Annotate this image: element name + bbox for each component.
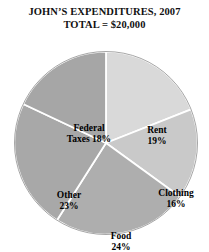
chart-subtitle-total: TOTAL = $20,000 bbox=[0, 19, 209, 31]
pie-svg bbox=[14, 51, 198, 235]
slice-label-food-value: 24% bbox=[91, 242, 151, 252]
chart-title-block: JOHN’S EXPENDITURES, 2007 TOTAL = $20,00… bbox=[0, 6, 209, 31]
page-title: JOHN’S EXPENDITURES, 2007 bbox=[0, 6, 209, 18]
pie-chart: Federal Taxes 18% Rent 19% Clothing 16% … bbox=[14, 51, 198, 235]
pie-slice-group bbox=[14, 52, 197, 235]
